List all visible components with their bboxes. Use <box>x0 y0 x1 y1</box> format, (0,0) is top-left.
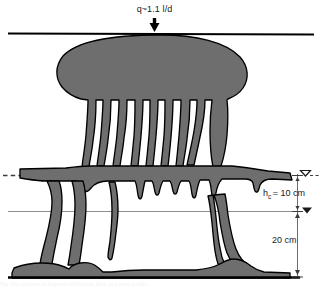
lower-finger-left-2 <box>68 181 86 265</box>
water-table-filled-symbol-icon <box>302 208 312 214</box>
lower-finger-center-drip <box>108 182 118 260</box>
dimension-arrow-hc-down-icon <box>295 206 299 210</box>
flux-label: q~1.1 l/d <box>137 4 173 14</box>
capillary-head-label: hc= 10 cm <box>263 188 305 200</box>
infiltration-cross-section-figure: q~1.1 l/d hc= 10 cm 20 cm <box>0 0 322 290</box>
lower-finger-left-1 <box>40 181 62 264</box>
capillary-head-subscript: c <box>268 193 272 200</box>
depth-label: 20 cm <box>272 235 297 245</box>
upper-saturated-lens-and-fingers <box>57 35 247 167</box>
basal-accumulation-layer <box>12 259 290 278</box>
dye-pattern-group <box>12 35 292 278</box>
flux-arrow-group <box>150 18 160 32</box>
dimension-arrow-hc-up-icon <box>295 177 299 181</box>
figure-root: q~1.1 l/d hc= 10 cm 20 cm Fig. Dye patte… <box>0 0 322 290</box>
capillary-head-value: = 10 cm <box>273 188 305 198</box>
soil-surface-line <box>8 34 314 35</box>
down-arrow-icon <box>150 23 160 32</box>
dimension-arrow-down-icon <box>295 270 300 275</box>
cropped-caption-remnant: Fig. Dye pattern of fingered infiltratio… <box>0 281 322 290</box>
dimension-arrow-up-icon <box>295 213 300 218</box>
lower-finger-right-wide <box>208 194 250 266</box>
